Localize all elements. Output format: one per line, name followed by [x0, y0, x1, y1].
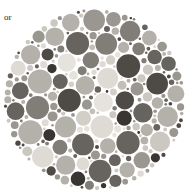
- figure-dot: [114, 126, 121, 133]
- field-dot: [42, 26, 48, 32]
- field-dot: [57, 109, 61, 113]
- field-dot: [163, 71, 166, 74]
- field-dot: [95, 86, 101, 92]
- field-dot: [29, 93, 33, 97]
- field-dot: [50, 19, 57, 26]
- field-dot: [175, 68, 177, 70]
- field-dot: [100, 138, 116, 154]
- field-dot: [118, 42, 129, 53]
- field-dot: [53, 88, 56, 91]
- field-dot: [22, 146, 32, 156]
- field-dot: [82, 100, 92, 110]
- field-dot: [104, 26, 110, 32]
- figure-dot: [94, 93, 113, 112]
- field-dot: [130, 17, 132, 19]
- field-dot: [95, 33, 117, 55]
- field-dot: [126, 126, 130, 130]
- figure-dot: [77, 127, 83, 133]
- field-dot: [76, 157, 89, 170]
- field-dot: [114, 168, 118, 172]
- field-dot: [97, 68, 118, 89]
- field-dot: [132, 176, 136, 180]
- field-dot: [47, 166, 56, 175]
- field-dot: [99, 61, 105, 67]
- field-dot: [90, 160, 93, 163]
- field-dot: [5, 89, 11, 95]
- field-dot: [143, 83, 146, 86]
- field-dot: [133, 152, 150, 169]
- field-dot: [133, 120, 135, 122]
- field-dot: [167, 75, 171, 79]
- field-dot: [150, 163, 155, 168]
- figure-dot: [118, 81, 127, 90]
- field-dot: [119, 162, 134, 177]
- field-dot: [26, 96, 49, 119]
- field-dot: [12, 99, 14, 101]
- field-dot: [61, 111, 65, 115]
- field-dot: [55, 174, 60, 179]
- field-dot: [91, 150, 100, 159]
- field-dot: [31, 41, 34, 44]
- field-dot: [122, 15, 128, 21]
- field-dot: [53, 74, 68, 89]
- field-dot: [55, 116, 76, 137]
- field-dot: [95, 186, 99, 190]
- field-dot: [172, 139, 175, 142]
- field-dot: [61, 176, 70, 185]
- field-dot: [112, 28, 119, 35]
- field-dot: [6, 80, 13, 87]
- field-dot: [137, 74, 145, 82]
- field-dot: [177, 103, 184, 110]
- field-dot: [67, 32, 70, 35]
- field-dot: [11, 131, 17, 137]
- field-dot: [46, 27, 65, 46]
- field-dot: [172, 72, 181, 81]
- figure-dot: [94, 139, 98, 143]
- field-dot: [117, 111, 132, 126]
- field-dot: [24, 115, 28, 119]
- field-dot: [90, 32, 97, 39]
- ishihara-plate-page: or: [0, 0, 190, 195]
- field-dot: [20, 120, 23, 123]
- field-dot: [153, 114, 156, 117]
- field-dot: [93, 76, 96, 79]
- field-dot: [32, 146, 54, 168]
- field-dot: [141, 124, 153, 136]
- field-dot: [143, 92, 153, 102]
- figure-dot: [65, 73, 67, 75]
- field-dot: [11, 121, 19, 129]
- field-dot: [116, 131, 139, 154]
- field-dot: [176, 82, 179, 85]
- field-dot: [21, 75, 27, 81]
- field-dot: [15, 140, 20, 145]
- field-dot: [53, 163, 56, 166]
- field-dot: [143, 64, 153, 74]
- field-dot: [109, 175, 121, 187]
- field-dot: [85, 181, 94, 190]
- figure-dot: [76, 111, 91, 126]
- field-dot: [145, 51, 148, 54]
- field-dot: [50, 103, 57, 110]
- field-dot: [4, 96, 11, 103]
- field-dot: [71, 113, 75, 117]
- field-dot: [157, 106, 178, 127]
- field-dot: [163, 128, 167, 132]
- field-dot: [126, 79, 130, 83]
- figure-dot: [58, 53, 76, 71]
- field-dot: [37, 143, 40, 146]
- field-dot: [21, 100, 25, 104]
- figure-dot: [120, 77, 122, 79]
- field-dot: [122, 179, 128, 185]
- figure-dot: [123, 127, 126, 130]
- field-dot: [55, 155, 58, 158]
- field-dot: [139, 37, 142, 40]
- field-dot: [117, 37, 121, 41]
- field-dot: [153, 45, 156, 48]
- field-dot: [57, 45, 64, 52]
- field-dot: [180, 112, 184, 116]
- field-dot: [101, 183, 106, 188]
- field-dot: [53, 140, 68, 155]
- field-dot: [26, 40, 31, 45]
- field-dot: [164, 98, 168, 102]
- field-dot: [106, 12, 121, 27]
